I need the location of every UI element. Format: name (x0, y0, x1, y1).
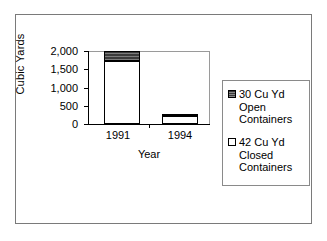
plot-area: 2,000 1,500 1,000 500 0 1991 1994 (88, 51, 210, 125)
y-tick-mark-500: 500 (84, 106, 89, 107)
x-tick-label-1991: 1991 (106, 129, 130, 141)
bar-segment-1991-closed[interactable] (104, 61, 140, 124)
y-tick-mark-0: 0 (84, 124, 89, 125)
chart-figure: Cubic Yards 2,000 1,500 1,000 500 0 1991… (0, 0, 327, 241)
plot-right-border (209, 51, 210, 125)
legend-swatch-white-icon (228, 138, 236, 146)
legend-label-open-containers: 30 Cu Yd Open Containers (239, 88, 292, 126)
y-axis-title: Cubic Yards (14, 16, 26, 112)
y-tick-label-2000: 2,000 (50, 45, 78, 57)
x-tick-mark-mid (149, 124, 150, 128)
y-tick-mark-1000: 1,000 (84, 88, 89, 89)
y-tick-label-1500: 1,500 (50, 63, 78, 75)
legend: 30 Cu Yd Open Containers 42 Cu Yd Closed… (222, 80, 310, 186)
x-tick-label-1994: 1994 (168, 129, 192, 141)
legend-item-closed-containers[interactable]: 42 Cu Yd Closed Containers (228, 136, 308, 174)
bar-group-1991[interactable] (104, 51, 140, 124)
y-tick-mark-2000: 2,000 (84, 51, 89, 52)
y-tick-label-0: 0 (72, 118, 78, 130)
legend-swatch-dark-icon (228, 90, 236, 98)
y-tick-label-500: 500 (60, 100, 78, 112)
bar-segment-1994-open[interactable] (162, 114, 198, 116)
y-tick-label-1000: 1,000 (50, 82, 78, 94)
legend-label-closed-containers: 42 Cu Yd Closed Containers (239, 136, 292, 174)
bar-group-1994[interactable] (162, 51, 198, 124)
bar-segment-1994-closed[interactable] (162, 116, 198, 124)
x-axis-title: Year (88, 148, 210, 160)
legend-item-open-containers[interactable]: 30 Cu Yd Open Containers (228, 88, 308, 126)
bar-segment-1991-open[interactable] (104, 51, 140, 61)
y-tick-mark-1500: 1,500 (84, 69, 89, 70)
